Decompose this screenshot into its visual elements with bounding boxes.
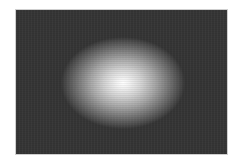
noise-texture	[16, 10, 227, 154]
dark-image-frame	[15, 9, 228, 155]
